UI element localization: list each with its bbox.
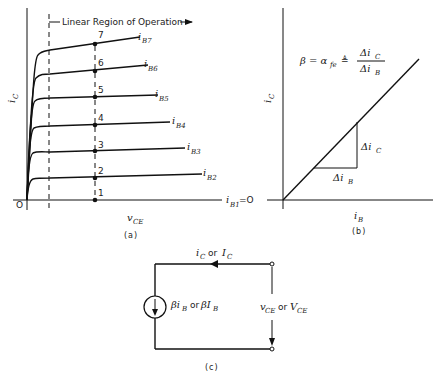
svg-text:i: i [203, 167, 206, 178]
svg-text:B6: B6 [147, 65, 158, 73]
svg-text:fe: fe [329, 61, 337, 69]
svg-text:B7: B7 [141, 37, 152, 45]
svg-text:C: C [12, 93, 20, 99]
collector-current-label: i C or I C [196, 247, 233, 261]
point-1 [93, 198, 98, 203]
point-2 [93, 176, 98, 181]
svg-text:C: C [227, 253, 233, 261]
point-6 [93, 69, 98, 74]
svg-text:i: i [6, 100, 17, 103]
svg-text:≜: ≜ [341, 55, 349, 65]
svg-text:or: or [208, 248, 218, 258]
svg-text:B: B [357, 216, 363, 224]
svg-text:Δi: Δi [332, 172, 343, 183]
point-label-2: 2 [98, 166, 104, 176]
svg-text:i: i [155, 88, 158, 99]
svg-text:CE: CE [297, 307, 307, 315]
y-axis-label-b: i C [262, 93, 276, 103]
curve-label-ib5: i B5 [155, 88, 169, 103]
svg-text:=O: =O [239, 195, 254, 205]
svg-text:C: C [375, 53, 381, 61]
vce-label: v CE or V CE [260, 301, 307, 315]
svg-text:C: C [200, 253, 206, 261]
point-label-1: 1 [98, 188, 104, 198]
curve-label-ib7: i B7 [138, 31, 152, 45]
caption-a: (a) [124, 231, 138, 240]
svg-text:Δi: Δi [360, 141, 371, 152]
svg-text:β = α: β = α [299, 55, 328, 66]
x-axis-label-ib: i B [354, 210, 363, 224]
point-3 [93, 149, 98, 154]
svg-text:i: i [144, 58, 147, 69]
source-value-label: βi B or βI B [170, 299, 218, 313]
linear-region-label: Linear Region of Operation [62, 17, 183, 27]
svg-text:or: or [278, 302, 288, 312]
svg-text:i: i [354, 210, 357, 221]
svg-text:i: i [138, 31, 141, 42]
curve-label-ib6: i B6 [144, 58, 158, 73]
svg-text:i: i [226, 194, 229, 205]
delta-ib-label: Δi B [332, 172, 353, 186]
curve-ib6 [27, 65, 148, 200]
svg-text:i: i [196, 247, 199, 258]
beta-formula: β = α fe ≜ Δi C Δi B [299, 47, 385, 77]
point-label-7: 7 [98, 30, 104, 40]
svg-text:or: or [190, 300, 200, 310]
panel-a-output-characteristics: Linear Region of Operation 7 6 5 4 3 2 1… [6, 8, 254, 240]
caption-c: (c) [205, 363, 219, 372]
caption-b: (b) [352, 227, 366, 236]
svg-text:i: i [187, 141, 190, 152]
svg-text:βI: βI [200, 299, 212, 310]
collector-terminal [270, 262, 274, 266]
delta-ic-label: Δi C [360, 141, 382, 155]
x-axis-label-vce: v CE [127, 212, 143, 226]
svg-text:C: C [268, 93, 276, 99]
svg-text:B: B [374, 69, 380, 77]
point-label-3: 3 [98, 140, 104, 150]
svg-text:B5: B5 [158, 95, 169, 103]
point-label-6: 6 [98, 58, 104, 68]
svg-text:i: i [262, 100, 273, 103]
point-5 [93, 95, 98, 100]
point-4 [93, 123, 98, 128]
y-axis-label-ic: i C [6, 93, 20, 103]
svg-text:CE: CE [133, 218, 143, 226]
svg-text:B: B [212, 305, 218, 313]
curve-label-ib1: i B1 =O [226, 194, 254, 209]
svg-text:Δi: Δi [359, 47, 370, 58]
curve-label-ib4: i B4 [172, 115, 186, 130]
svg-text:CE: CE [265, 307, 275, 315]
svg-text:B2: B2 [206, 174, 217, 182]
emitter-terminal [270, 347, 274, 351]
svg-text:C: C [376, 147, 382, 155]
svg-text:B: B [347, 178, 353, 186]
svg-text:B3: B3 [190, 148, 201, 156]
panel-c-equivalent-circuit: i C or I C βi B or βI B v CE or V CE (c) [144, 247, 307, 372]
curve-ib2 [27, 174, 202, 200]
current-arrow [210, 260, 218, 268]
svg-text:B: B [181, 305, 187, 313]
panel-b-current-gain: Δi C Δi B β = α fe ≜ Δi C Δi B i C i B (… [262, 8, 433, 236]
point-7 [93, 42, 98, 47]
svg-text:βi: βi [170, 299, 180, 310]
svg-text:B4: B4 [175, 122, 186, 130]
voltage-arrow-icon [269, 338, 275, 346]
origin-label: O [16, 200, 23, 210]
svg-text:Δi: Δi [359, 63, 370, 74]
transistor-characteristics-figure: Linear Region of Operation 7 6 5 4 3 2 1… [0, 0, 439, 379]
point-label-5: 5 [98, 85, 104, 95]
curve-ib5 [27, 95, 158, 200]
curve-label-ib2: i B2 [203, 167, 217, 182]
curve-ib3 [27, 148, 185, 200]
point-label-4: 4 [98, 113, 104, 123]
curve-label-ib3: i B3 [187, 141, 201, 156]
svg-text:i: i [172, 115, 175, 126]
